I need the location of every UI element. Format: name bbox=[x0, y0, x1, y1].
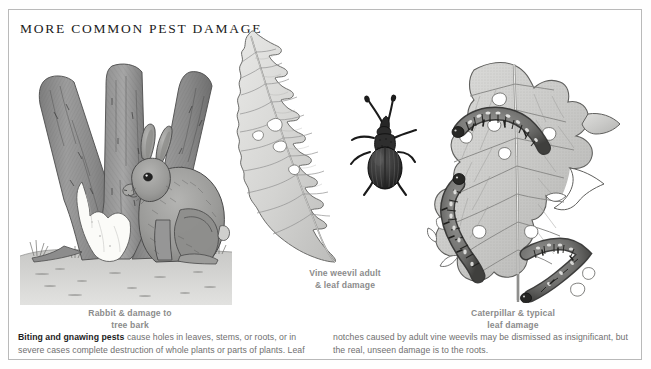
figure-caterpillar-leaf bbox=[418, 58, 633, 303]
caption-rabbit-line1: Rabbit & damage to bbox=[70, 308, 190, 320]
caption-weevil-line2: & leaf damage bbox=[290, 280, 400, 292]
caption-rabbit: Rabbit & damage to tree bark bbox=[70, 308, 190, 331]
figure-rabbit-tree bbox=[20, 60, 232, 305]
caption-vine-weevil: Vine weevil adult & leaf damage bbox=[290, 268, 400, 291]
body-lead: Biting and gnawing pests bbox=[18, 332, 124, 342]
caption-caterpillar-line2: leaf damage bbox=[433, 320, 593, 332]
pest-damage-plate: MORE COMMON PEST DAMAGE bbox=[0, 0, 651, 369]
caption-rabbit-line2: tree bark bbox=[70, 320, 190, 332]
notched-leaf bbox=[237, 31, 335, 262]
body-paragraph: Biting and gnawing pests cause holes in … bbox=[18, 331, 632, 356]
figure-weevil-beetle bbox=[346, 92, 420, 200]
caption-caterpillar-line1: Caterpillar & typical bbox=[433, 308, 593, 320]
caption-weevil-line1: Vine weevil adult bbox=[290, 268, 400, 280]
weevil-beetle bbox=[351, 94, 416, 195]
figure-vine-weevil bbox=[225, 24, 350, 274]
caption-caterpillar: Caterpillar & typical leaf damage bbox=[433, 308, 593, 331]
